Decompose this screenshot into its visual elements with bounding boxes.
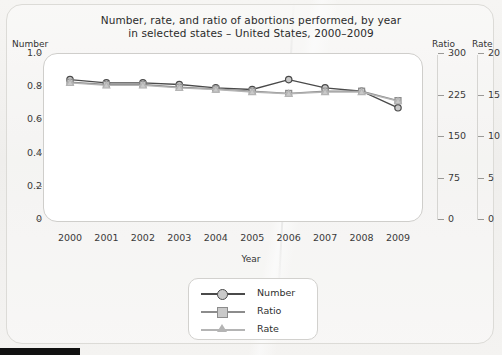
left-ticks-dash	[36, 186, 42, 187]
ratio-ticks-label: 300	[448, 47, 478, 58]
rate-ticks-label: 15	[488, 89, 502, 100]
left-ticks-dash	[36, 86, 42, 87]
ratio-ticks-dash	[438, 95, 444, 96]
ratio-ticks-label: 0	[448, 213, 478, 224]
rate-ticks-dash	[478, 178, 484, 179]
rate-ticks-label: 0	[488, 213, 502, 224]
ratio-ticks-label: 150	[448, 130, 478, 141]
rate-ticks-label: 5	[488, 172, 502, 183]
x-axis-tick-2005: 2005	[232, 232, 272, 243]
x-axis-tick-2004: 2004	[196, 232, 236, 243]
legend-label-ratio: Ratio	[257, 305, 281, 316]
x-axis-tick-2002: 2002	[123, 232, 163, 243]
x-axis-tick-2000: 2000	[50, 232, 90, 243]
left-ticks-dash	[36, 153, 42, 154]
x-axis-tick-2008: 2008	[342, 232, 382, 243]
legend-label-rate: Rate	[257, 323, 279, 334]
x-axis-tick-2001: 2001	[86, 232, 126, 243]
legend: Number Ratio Rate	[188, 278, 318, 340]
legend-marker-square-icon	[217, 307, 228, 318]
scan-edge-artifact	[0, 348, 80, 355]
x-axis-tick-2009: 2009	[378, 232, 418, 243]
ratio-ticks-dash	[438, 219, 444, 220]
x-axis-tick-2007: 2007	[305, 232, 345, 243]
ratio-ticks-label: 75	[448, 172, 478, 183]
legend-marker-circle-icon	[217, 289, 228, 300]
rate-ticks-dash	[478, 95, 484, 96]
left-ticks-dash	[36, 119, 42, 120]
chart-title-line-2: in selected states – United States, 2000…	[0, 27, 502, 40]
legend-item-ratio[interactable]: Ratio	[199, 303, 309, 321]
rate-ticks-label: 10	[488, 130, 502, 141]
chart-title-line-1: Number, rate, and ratio of abortions per…	[0, 14, 502, 27]
ratio-ticks-dash	[438, 53, 444, 54]
x-axis-tick-2003: 2003	[159, 232, 199, 243]
legend-item-rate[interactable]: Rate	[199, 321, 309, 339]
plot-area	[43, 53, 423, 222]
ratio-ticks-dash	[438, 178, 444, 179]
left-ticks-dash	[36, 53, 42, 54]
legend-item-number[interactable]: Number	[199, 285, 309, 303]
legend-label-number: Number	[257, 287, 295, 298]
rate-ticks-dash	[478, 53, 484, 54]
ratio-axis-rule	[437, 55, 438, 220]
rate-ticks-dash	[478, 219, 484, 220]
ratio-ticks-dash	[438, 136, 444, 137]
x-axis-label: Year	[0, 254, 502, 264]
legend-marker-triangle-icon	[217, 324, 227, 332]
chart-title: Number, rate, and ratio of abortions per…	[0, 14, 502, 40]
ratio-ticks-label: 225	[448, 89, 478, 100]
rate-ticks-label: 20	[488, 47, 502, 58]
x-axis-tick-2006: 2006	[269, 232, 309, 243]
rate-ticks-dash	[478, 136, 484, 137]
left-ticks-dash	[36, 219, 42, 220]
